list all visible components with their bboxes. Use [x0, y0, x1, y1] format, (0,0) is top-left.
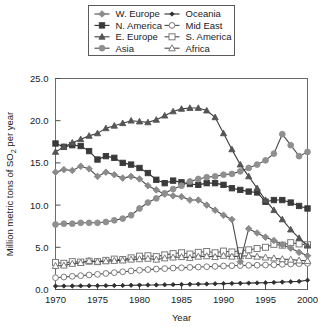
data-point-marker [263, 244, 269, 250]
x-axis-label: Year [172, 312, 191, 323]
data-point-marker [246, 262, 252, 268]
series-line [56, 108, 308, 246]
data-point-marker [263, 157, 269, 163]
data-point-marker [169, 34, 175, 40]
data-point-marker [163, 283, 167, 287]
data-point-marker [271, 262, 277, 268]
data-point-marker [304, 252, 311, 259]
data-point-marker [212, 263, 218, 269]
data-point-marker [171, 282, 175, 286]
data-point-marker [52, 169, 59, 176]
data-point-marker [137, 283, 141, 287]
legend: W. EuropeN. AmericaE. EuropeAsiaOceaniaM… [89, 6, 235, 56]
data-point-marker [263, 281, 267, 285]
data-point-marker [254, 262, 260, 268]
data-point-marker [104, 283, 108, 287]
x-tick-label: 1995 [255, 294, 276, 305]
data-point-marker [53, 284, 57, 288]
data-point-marker [245, 225, 252, 232]
data-point-marker [128, 162, 133, 167]
data-point-marker [213, 282, 217, 286]
y-axis-label: Million metric tons of SO2 per year [4, 112, 18, 256]
data-point-marker [196, 182, 201, 187]
data-point-marker [254, 162, 260, 168]
data-point-marker [196, 282, 200, 286]
series-e-europe [52, 105, 310, 248]
data-point-marker [296, 203, 301, 208]
data-point-marker [53, 222, 59, 228]
data-point-marker [187, 197, 194, 204]
data-point-marker [137, 165, 142, 170]
x-tick-label: 1990 [213, 294, 234, 305]
data-point-marker [103, 271, 109, 277]
data-point-marker [246, 189, 251, 194]
data-point-marker [111, 270, 117, 276]
legend-label: Oceania [186, 8, 222, 19]
data-point-marker [296, 249, 303, 256]
data-point-marker [229, 146, 235, 152]
data-point-marker [288, 142, 294, 148]
data-point-marker [95, 284, 99, 288]
data-point-marker [212, 180, 217, 185]
data-point-marker [94, 130, 100, 136]
data-point-marker [212, 207, 219, 214]
data-point-marker [288, 200, 293, 205]
data-point-marker [188, 282, 192, 286]
data-point-marker [169, 23, 175, 29]
data-point-marker [162, 190, 168, 196]
data-point-marker [103, 153, 108, 158]
data-point-marker [137, 267, 143, 273]
x-tick-label: 1970 [45, 294, 66, 305]
data-point-marker [229, 186, 234, 191]
data-point-marker [195, 176, 201, 182]
data-point-marker [103, 219, 109, 225]
data-point-marker [77, 163, 84, 170]
data-point-marker [70, 284, 74, 288]
data-point-marker [111, 217, 117, 223]
data-point-marker [280, 280, 284, 284]
data-point-marker [229, 171, 235, 177]
data-point-marker [120, 160, 125, 165]
data-point-marker [230, 281, 234, 285]
data-point-marker [119, 175, 126, 182]
so2-emissions-line-chart: 0.05.010.015.020.025.0197019751980198519… [0, 0, 322, 327]
data-point-marker [154, 177, 159, 182]
data-point-marker [120, 269, 126, 275]
data-point-marker [195, 264, 201, 270]
data-point-marker [220, 130, 226, 136]
data-point-marker [305, 149, 311, 155]
data-point-marker [53, 141, 58, 146]
data-point-marker [178, 193, 185, 200]
data-point-marker [212, 174, 218, 180]
data-point-marker [203, 202, 210, 209]
data-point-marker [103, 169, 110, 176]
data-point-marker [145, 200, 151, 206]
legend-label: Asia [116, 43, 135, 54]
data-point-marker [154, 283, 158, 287]
data-point-marker [128, 268, 134, 274]
y-tick-label: 5.0 [35, 242, 48, 253]
data-point-marker [221, 281, 225, 285]
data-point-marker [153, 117, 159, 123]
legend-label: Mid East [186, 20, 223, 31]
data-point-marker [305, 206, 310, 211]
data-point-marker [204, 264, 210, 270]
data-point-marker [195, 197, 202, 204]
data-point-marker [120, 216, 126, 222]
data-point-marker [53, 275, 59, 281]
x-tick-label: 1975 [87, 294, 108, 305]
data-point-marker [187, 264, 193, 270]
series-oceania [53, 278, 309, 288]
data-point-marker [162, 112, 168, 118]
data-point-marker [187, 179, 193, 185]
y-tick-label: 25.0 [30, 73, 49, 84]
data-point-marker [86, 148, 91, 153]
data-point-marker [145, 267, 151, 273]
data-point-marker [146, 283, 150, 287]
legend-label: S. America [186, 31, 233, 42]
data-point-marker [272, 280, 276, 284]
data-point-marker [229, 216, 236, 223]
data-point-marker [61, 166, 68, 173]
data-point-marker [170, 265, 176, 271]
legend-label: W. Europe [116, 8, 160, 19]
